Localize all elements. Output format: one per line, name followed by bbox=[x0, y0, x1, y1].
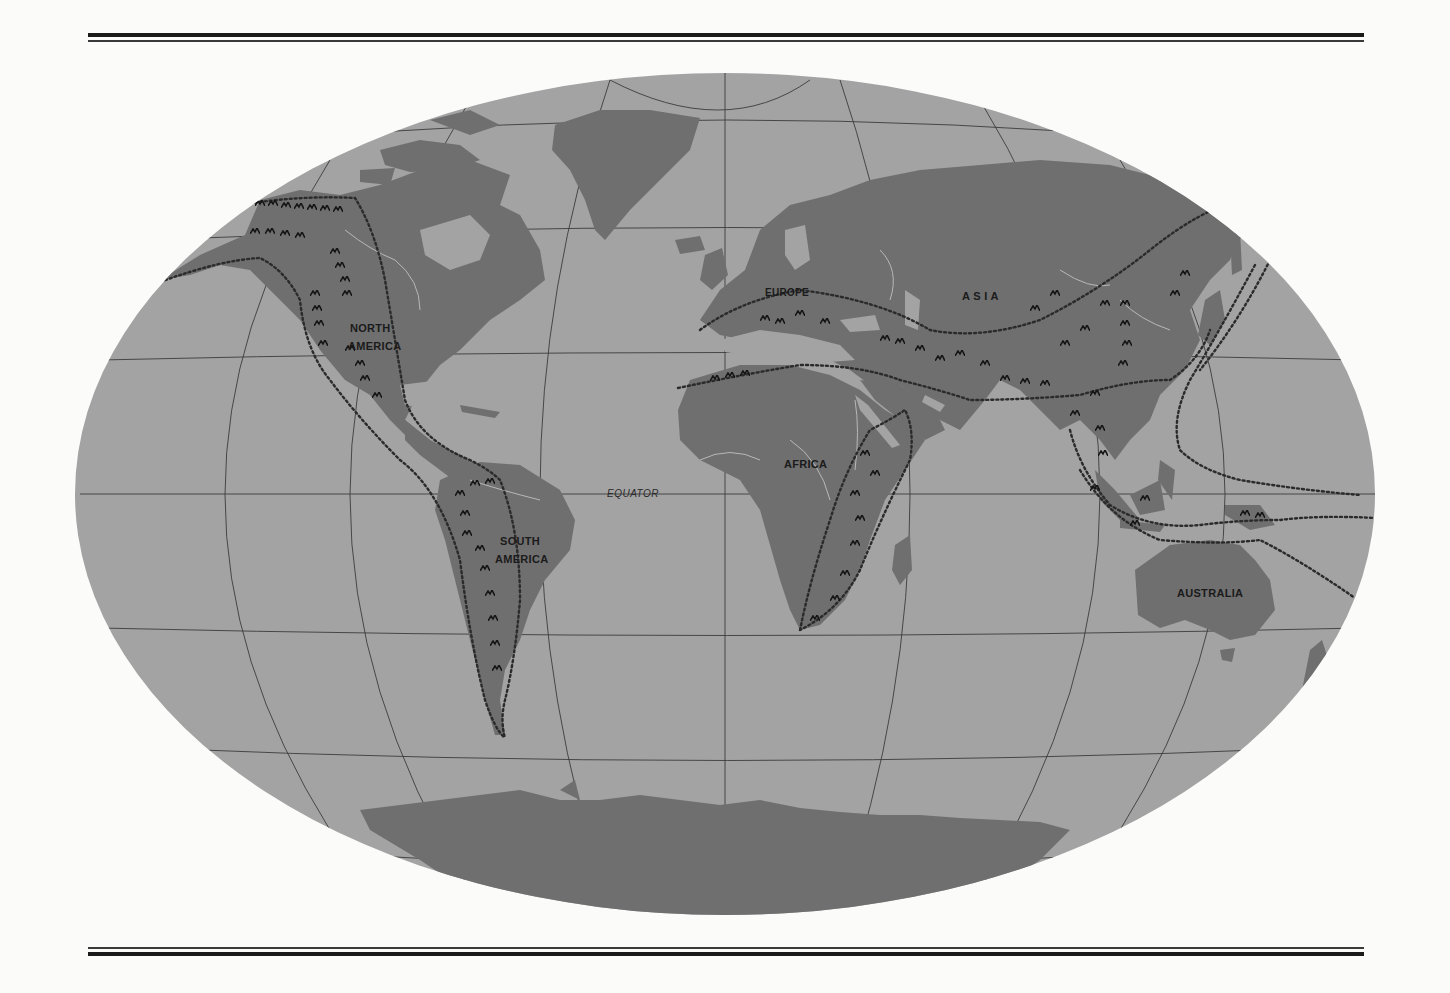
label-equator: EQUATOR bbox=[607, 488, 659, 499]
label-south-america-1: SOUTH bbox=[500, 535, 540, 547]
label-asia: A S I A bbox=[962, 290, 999, 302]
label-australia: AUSTRALIA bbox=[1177, 587, 1243, 599]
label-north-america-1: NORTH bbox=[350, 322, 391, 334]
label-africa: AFRICA bbox=[784, 458, 827, 470]
world-map: NORTH AMERICA SOUTH AMERICA EUROPE A S I… bbox=[0, 0, 1450, 993]
label-europe: EUROPE bbox=[765, 287, 809, 298]
label-south-america-2: AMERICA bbox=[495, 553, 548, 565]
label-north-america-2: AMERICA bbox=[348, 340, 401, 352]
